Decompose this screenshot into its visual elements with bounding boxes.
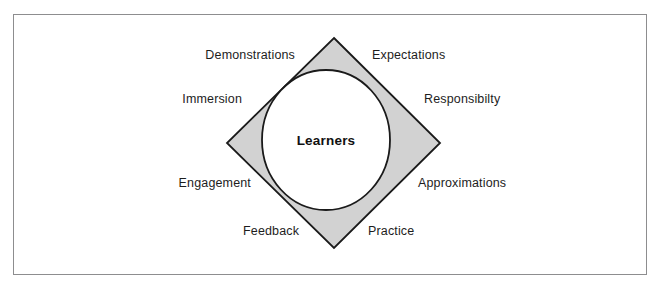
label-responsibility: Responsibilty bbox=[424, 93, 514, 106]
label-approximations: Approximations bbox=[418, 177, 518, 190]
label-feedback: Feedback bbox=[243, 225, 298, 238]
label-practice: Practice bbox=[368, 225, 423, 238]
label-immersion: Immersion bbox=[180, 93, 242, 106]
learners-diagram: Learners Demonstrations Expectations Imm… bbox=[0, 0, 660, 290]
center-label-learners: Learners bbox=[276, 134, 376, 148]
label-engagement: Engagement bbox=[173, 177, 251, 190]
diagram-page: Learners Demonstrations Expectations Imm… bbox=[0, 0, 660, 290]
label-expectations: Expectations bbox=[372, 49, 472, 62]
label-demonstrations: Demonstrations bbox=[195, 49, 295, 62]
